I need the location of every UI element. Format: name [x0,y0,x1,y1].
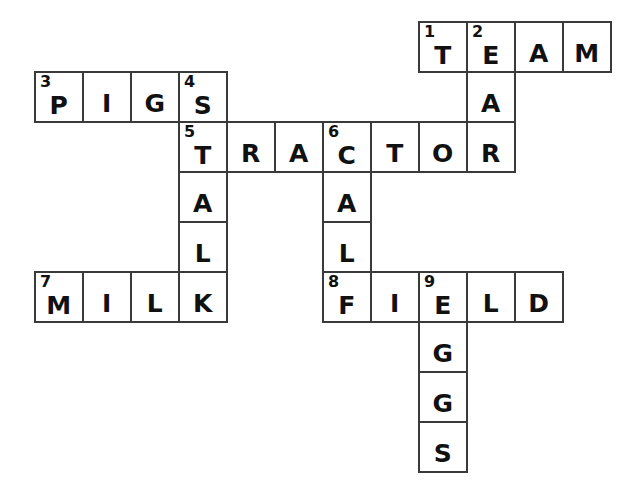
crossword-cell[interactable]: 1T [418,21,468,73]
cell-letter: S [180,93,226,119]
cell-number: 7 [40,273,51,290]
crossword-cell[interactable]: I [82,71,132,123]
crossword-cell[interactable]: 8F [322,271,372,323]
crossword-cell[interactable]: L [130,271,180,323]
crossword-cell[interactable]: M [562,21,612,73]
crossword-cell[interactable]: G [418,371,468,423]
cell-letter: E [420,293,466,319]
cell-letter: G [420,391,466,417]
crossword-cell[interactable]: S [418,421,468,473]
cell-letter: P [36,93,82,119]
cell-letter: M [564,41,610,67]
cell-number: 5 [184,123,195,140]
crossword-cell[interactable]: 9E [418,271,468,323]
cell-number: 1 [424,23,435,40]
crossword-cell[interactable]: 5T [178,121,228,173]
crossword-cell[interactable]: T [370,121,420,173]
cell-letter: R [468,141,514,167]
cell-number: 2 [472,23,483,40]
cell-letter: T [372,141,418,167]
crossword-cell[interactable]: 4S [178,71,228,123]
crossword-cell[interactable]: O [418,121,468,173]
crossword-cell[interactable]: A [322,171,372,223]
cell-letter: A [324,191,370,217]
crossword-cell[interactable]: 2E [466,21,516,73]
cell-letter: A [468,91,514,117]
cell-letter: G [132,91,178,117]
cell-letter: I [372,291,418,317]
crossword-cell[interactable]: A [178,171,228,223]
cell-number: 6 [328,123,339,140]
crossword-cell[interactable]: R [466,121,516,173]
cell-number: 3 [40,73,51,90]
crossword-cell[interactable]: G [418,321,468,373]
cell-letter: T [180,143,226,169]
cell-letter: I [84,91,130,117]
cell-letter: L [132,291,178,317]
cell-number: 8 [328,273,339,290]
crossword-cell[interactable]: I [82,271,132,323]
cell-letter: M [36,293,82,319]
cell-letter: F [324,293,370,319]
crossword-grid[interactable]: 1T2EAM3PIG4SA5TRA6CTORAALL7MILK8FI9ELDGG… [0,0,627,482]
crossword-cell[interactable]: L [322,221,372,273]
cell-letter: E [468,43,514,69]
cell-number: 4 [184,73,195,90]
crossword-cell[interactable]: 6C [322,121,372,173]
crossword-cell[interactable]: K [178,271,228,323]
crossword-cell[interactable]: R [226,121,276,173]
cell-letter: D [516,291,562,317]
cell-letter: K [180,291,226,317]
crossword-cell[interactable]: D [514,271,564,323]
cell-letter: I [84,291,130,317]
cell-letter: L [468,291,514,317]
crossword-cell[interactable]: L [466,271,516,323]
cell-letter: G [420,341,466,367]
crossword-cell[interactable]: 3P [34,71,84,123]
crossword-cell[interactable]: A [514,21,564,73]
cell-letter: A [516,41,562,67]
cell-letter: L [180,241,226,267]
cell-number: 9 [424,273,435,290]
crossword-cell[interactable]: I [370,271,420,323]
cell-letter: R [228,141,274,167]
cell-letter: C [324,143,370,169]
crossword-cell[interactable]: 7M [34,271,84,323]
cell-letter: O [420,141,466,167]
crossword-cell[interactable]: G [130,71,180,123]
cell-letter: A [180,191,226,217]
crossword-cell[interactable]: A [466,71,516,123]
crossword-cell[interactable]: A [274,121,324,173]
cell-letter: L [324,241,370,267]
cell-letter: A [276,141,322,167]
crossword-cell[interactable]: L [178,221,228,273]
cell-letter: S [420,441,466,467]
cell-letter: T [420,43,466,69]
